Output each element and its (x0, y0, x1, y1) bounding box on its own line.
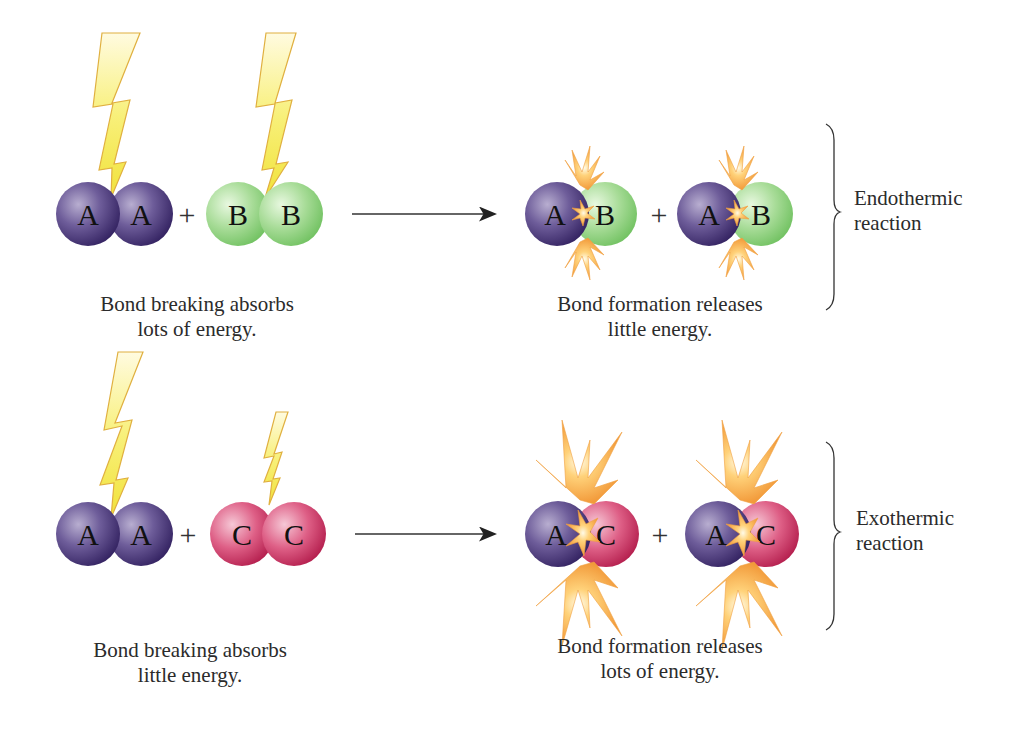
lightning-bolt-icon (100, 352, 143, 518)
svg-text:C: C (284, 518, 304, 551)
plus-sign: + (179, 198, 196, 231)
plus-sign: + (651, 198, 668, 231)
endothermic-label: Endothermic reaction (854, 186, 962, 236)
svg-text:B: B (281, 198, 301, 231)
svg-text:B: B (228, 198, 248, 231)
molecule-cc: C C (210, 502, 326, 566)
product-caption-endothermic: Bond formation releases little energy. (510, 292, 810, 342)
reaction-diagram: A A + B B A B (0, 0, 1034, 731)
svg-text:A: A (698, 198, 720, 231)
molecule-bb: B B (206, 182, 323, 246)
exothermic-row: A A + C C A C + (56, 352, 840, 650)
svg-text:A: A (77, 198, 99, 231)
plus-sign: + (180, 518, 197, 551)
svg-text:A: A (130, 518, 152, 551)
svg-text:A: A (544, 198, 566, 231)
svg-text:A: A (130, 198, 152, 231)
curly-brace (826, 124, 840, 310)
svg-text:C: C (756, 518, 776, 551)
lightning-bolt-icon (93, 33, 140, 198)
lightning-bolt-icon (256, 33, 296, 198)
svg-text:C: C (596, 518, 616, 551)
curly-brace (826, 442, 840, 630)
endothermic-row: A A + B B A B (56, 33, 840, 310)
svg-text:B: B (751, 198, 771, 231)
product-caption-exothermic: Bond formation releases lots of energy. (510, 634, 810, 684)
plus-sign: + (652, 518, 669, 551)
lightning-bolt-icon (264, 412, 288, 505)
reactant-caption-endothermic: Bond breaking absorbs lots of energy. (52, 292, 342, 342)
svg-text:A: A (77, 518, 99, 551)
svg-text:A: A (705, 518, 727, 551)
exothermic-label: Exothermic reaction (856, 506, 954, 556)
svg-text:A: A (545, 518, 567, 551)
svg-text:B: B (595, 198, 615, 231)
molecule-aa: A A (56, 182, 173, 246)
svg-text:C: C (232, 518, 252, 551)
molecule-aa: A A (56, 502, 173, 566)
reactant-caption-exothermic: Bond breaking absorbs little energy. (45, 638, 335, 688)
